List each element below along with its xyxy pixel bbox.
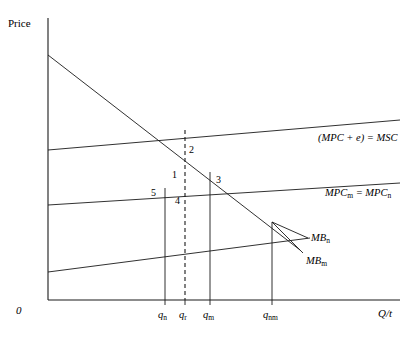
annotation-2: 2 xyxy=(189,145,194,155)
x-axis-title: Q/t xyxy=(378,308,392,319)
tick-label-q-m: qm xyxy=(203,310,214,321)
mb-n-base: MB xyxy=(311,232,326,243)
mb-m-base: MB xyxy=(306,255,321,266)
tick-label-q-nm: qnm xyxy=(263,310,278,321)
annotation-5: 5 xyxy=(151,188,156,198)
mpc-sub-n: n xyxy=(388,191,392,200)
tick-sub-q-nm: nm xyxy=(268,313,278,322)
economics-diagram: Price Q/t 0 qn qr qm qnm (MPC + e) = MSC… xyxy=(0,0,417,345)
mpc-base-m: MPC xyxy=(325,187,347,198)
curve-label-mb-m: MBm xyxy=(306,256,327,267)
mpc-equals: = MPC xyxy=(353,187,388,198)
y-axis-title: Price xyxy=(8,18,31,29)
diagram-canvas xyxy=(0,0,417,345)
tick-sub-q-m: m xyxy=(208,313,214,322)
tick-sub-q-r: r xyxy=(184,313,187,322)
curve-mb-m xyxy=(48,55,300,250)
curve-label-msc: (MPC + e) = MSC xyxy=(318,133,398,144)
annotation-3: 3 xyxy=(216,175,221,185)
tick-sub-q-n: n xyxy=(163,313,167,322)
curve-mb-n xyxy=(48,238,310,272)
mb-m-sub: m xyxy=(321,259,327,268)
annotation-4: 4 xyxy=(175,196,180,206)
curve-label-mb-n: MBn xyxy=(311,233,330,244)
mb-n-sub: n xyxy=(326,236,330,245)
mpc-sub-m: m xyxy=(347,191,353,200)
tick-label-q-n: qn xyxy=(158,310,167,321)
leader-mb-m xyxy=(272,222,303,253)
leader-mb-n xyxy=(272,222,308,238)
annotation-1: 1 xyxy=(172,170,177,180)
tick-label-q-r: qr xyxy=(179,310,187,321)
origin-label: 0 xyxy=(16,305,22,316)
curve-label-mpc: MPCm = MPCn xyxy=(325,188,391,199)
